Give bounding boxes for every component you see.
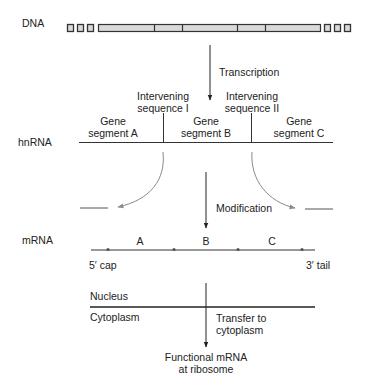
dna-label: DNA xyxy=(22,17,44,29)
transfer-line2: cytoplasm xyxy=(216,324,266,336)
intervening-sequence-2-label: Intervening sequence II xyxy=(225,90,279,114)
gene-segment-c-label: Gene segment C xyxy=(274,115,325,139)
three-prime-tail-label: 3′ tail xyxy=(306,259,330,271)
gene-segment-b-label: Gene segment B xyxy=(181,115,231,139)
excision-arrow-right xyxy=(252,152,295,208)
excision-arrow-left xyxy=(118,152,163,207)
dna-right-boxes xyxy=(325,25,351,32)
mrna-segment-c: C xyxy=(268,235,276,247)
cytoplasm-label: Cytoplasm xyxy=(90,311,140,323)
segment-c-line2: segment C xyxy=(274,127,325,139)
transfer-label: Transfer to cytoplasm xyxy=(216,312,266,336)
functional-mrna-label: Functional mRNA at ribosome xyxy=(165,351,247,375)
modification-label: Modification xyxy=(216,202,272,214)
result-line1: Functional mRNA xyxy=(165,351,247,363)
mrna-label: mRNA xyxy=(22,234,53,246)
intervening-2-line2: sequence II xyxy=(225,102,279,114)
result-line2: at ribosome xyxy=(165,363,247,375)
segment-b-line1: Gene xyxy=(181,115,231,127)
nucleus-label: Nucleus xyxy=(90,290,128,302)
gene-segment-a-label: Gene segment A xyxy=(88,115,138,139)
dna-bar xyxy=(99,25,321,32)
mrna-processing-diagram: DNA Transcription Intervening sequence I… xyxy=(0,0,368,390)
segment-c-line1: Gene xyxy=(274,115,325,127)
dna-left-boxes xyxy=(68,25,94,32)
five-prime-cap-label: 5′ cap xyxy=(89,259,117,271)
mrna-strand xyxy=(91,248,315,251)
intervening-sequence-1-label: Intervening sequence I xyxy=(137,90,189,114)
intervening-2-line1: Intervening xyxy=(225,90,279,102)
mrna-segment-a: A xyxy=(136,235,143,247)
hnrna-label: hnRNA xyxy=(18,136,52,148)
intervening-1-line2: sequence I xyxy=(137,102,189,114)
intervening-1-line1: Intervening xyxy=(137,90,189,102)
transcription-label: Transcription xyxy=(219,66,279,78)
segment-b-line2: segment B xyxy=(181,127,231,139)
segment-a-line2: segment A xyxy=(88,127,138,139)
mrna-segment-b: B xyxy=(202,235,209,247)
transfer-line1: Transfer to xyxy=(216,312,266,324)
diagram-graphics xyxy=(0,0,368,390)
segment-a-line1: Gene xyxy=(88,115,138,127)
